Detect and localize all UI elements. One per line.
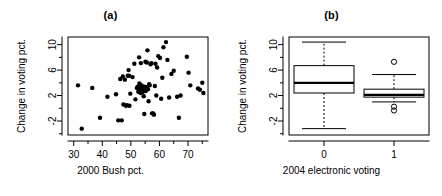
data-point: [98, 116, 102, 120]
data-point: [120, 118, 124, 122]
boxplot-box: [364, 59, 424, 113]
data-point: [186, 70, 190, 74]
data-point: [161, 45, 165, 49]
panel-b-plot-area: 01-22610: [221, 0, 442, 196]
data-point: [139, 61, 143, 65]
data-point: [126, 68, 130, 72]
data-point: [114, 92, 118, 96]
x-tick-label: 30: [68, 149, 80, 160]
data-point: [178, 93, 182, 97]
data-point: [130, 75, 134, 79]
y-tick-label: -2: [268, 116, 279, 125]
y-tick-label: -2: [47, 116, 58, 125]
x-tick-label: 60: [154, 149, 166, 160]
data-point: [142, 94, 146, 98]
data-point: [155, 65, 159, 69]
data-point: [177, 116, 181, 120]
data-point: [198, 88, 202, 92]
data-point: [90, 86, 94, 90]
x-tick-label: 0: [321, 149, 327, 160]
data-point: [145, 60, 149, 64]
y-tick-label: 10: [268, 39, 279, 51]
data-point: [165, 58, 169, 62]
data-point: [158, 56, 162, 60]
x-tick-label: 50: [125, 149, 137, 160]
data-point: [152, 112, 156, 116]
data-point: [76, 83, 80, 87]
data-point: [200, 81, 204, 85]
data-point: [201, 91, 205, 95]
data-point: [145, 48, 149, 52]
data-point: [172, 69, 176, 73]
data-point: [127, 104, 131, 108]
data-point: [80, 126, 84, 130]
data-point: [137, 55, 141, 59]
data-point: [133, 97, 137, 101]
panel-a-plot-area: 3040506070-22610: [0, 0, 221, 196]
data-point: [185, 55, 189, 59]
box-iqr: [294, 66, 354, 93]
data-point: [153, 84, 157, 88]
data-point: [167, 95, 171, 99]
data-point: [146, 99, 150, 103]
panel-b-boxplot: (b) Change in voting pct. 2004 electroni…: [221, 0, 442, 196]
data-point: [128, 91, 132, 95]
x-tick-label: 70: [182, 149, 194, 160]
data-point: [123, 77, 127, 81]
panel-a-scatter: (a) Change in voting pct. 2000 Bush pct.…: [0, 0, 221, 196]
y-tick-label: 6: [47, 67, 58, 73]
data-point: [160, 76, 164, 80]
y-tick-label: 6: [268, 67, 279, 73]
boxplot-box: [294, 42, 354, 129]
data-point: [153, 62, 157, 66]
data-point: [164, 40, 168, 44]
y-tick-label: 2: [268, 92, 279, 98]
outlier-point: [391, 108, 396, 113]
data-point: [148, 83, 152, 87]
data-point: [188, 83, 192, 87]
data-point: [105, 95, 109, 99]
y-tick-label: 2: [47, 92, 58, 98]
x-tick-label: 1: [391, 149, 397, 160]
data-point: [154, 93, 158, 97]
data-point: [132, 62, 136, 66]
data-point: [142, 112, 146, 116]
data-point: [149, 61, 153, 65]
figure-two-panel: (a) Change in voting pct. 2000 Bush pct.…: [0, 0, 442, 196]
outlier-point: [391, 59, 396, 64]
data-point: [159, 97, 163, 101]
y-tick-label: 10: [47, 39, 58, 51]
data-point: [146, 87, 150, 91]
x-tick-label: 40: [97, 149, 109, 160]
